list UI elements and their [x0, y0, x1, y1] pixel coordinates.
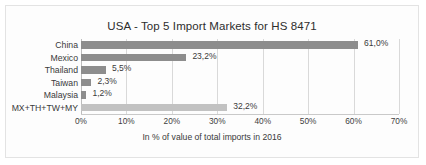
bar-row: 5,5% [81, 64, 399, 77]
bar[interactable] [81, 104, 227, 112]
bar-row: 32,2% [81, 102, 399, 115]
category-label: MX+TH+TW+MY [12, 102, 78, 115]
gridline [399, 39, 400, 114]
bar-row: 61,0% [81, 39, 399, 52]
bar-value-label: 2,3% [97, 76, 116, 86]
category-label: Malaysia [44, 89, 78, 102]
bar[interactable] [81, 54, 186, 62]
chart-title: USA - Top 5 Import Markets for HS 8471 [6, 20, 418, 32]
category-label: Thailand [45, 64, 78, 77]
bar-value-label: 1,2% [92, 88, 111, 98]
plot-area: 61,0%23,2%5,5%2,3%1,2%32,2% [81, 39, 399, 114]
chart-container: USA - Top 5 Import Markets for HS 8471 C… [5, 5, 419, 158]
x-tick-label: 30% [209, 116, 226, 126]
x-tick-label: 40% [254, 116, 271, 126]
bar-value-label: 23,2% [192, 51, 216, 61]
bar[interactable] [81, 79, 91, 87]
category-label: Mexico [50, 52, 78, 65]
bar[interactable] [81, 41, 358, 49]
bar-row: 2,3% [81, 77, 399, 90]
value-axis-tick-labels: 0%10%20%30%40%50%60%70% [81, 116, 399, 130]
category-label: China [55, 39, 78, 52]
x-tick-label: 0% [75, 116, 87, 126]
bar-value-label: 32,2% [233, 101, 257, 111]
category-axis-line [81, 114, 399, 115]
x-tick-label: 60% [345, 116, 362, 126]
x-tick-label: 70% [391, 116, 408, 126]
bar-value-label: 61,0% [364, 38, 388, 48]
value-axis-title: In % of value of total imports in 2016 [6, 132, 418, 142]
category-label: Taiwan [51, 77, 78, 90]
x-tick-label: 10% [118, 116, 135, 126]
category-axis-labels: ChinaMexicoThailandTaiwanMalaysiaMX+TH+T… [6, 39, 78, 114]
x-tick-label: 50% [300, 116, 317, 126]
x-tick-label: 20% [164, 116, 181, 126]
bar[interactable] [81, 91, 86, 99]
bar-value-label: 5,5% [112, 63, 131, 73]
bar[interactable] [81, 66, 106, 74]
